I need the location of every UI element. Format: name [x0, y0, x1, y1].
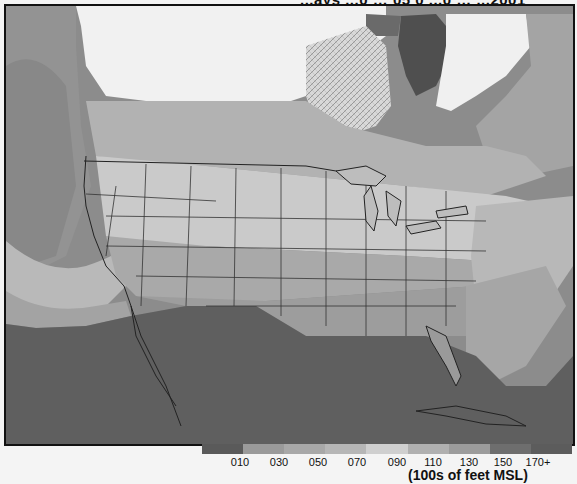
legend-units: (100s of feet MSL) — [408, 467, 528, 483]
legend-swatch — [366, 444, 407, 454]
legend-label: 050 — [309, 456, 327, 468]
legend-label: 090 — [388, 456, 406, 468]
legend-swatch — [202, 444, 243, 454]
legend-swatch — [531, 444, 572, 454]
legend-label: 030 — [270, 456, 288, 468]
legend-swatch — [243, 444, 284, 454]
legend-label: 010 — [231, 456, 249, 468]
legend-label: 170+ — [526, 456, 551, 468]
legend-swatch — [449, 444, 490, 454]
freezing-level-map — [4, 4, 575, 446]
legend-color-bar — [202, 444, 572, 454]
legend-swatch — [490, 444, 531, 454]
legend-swatch — [284, 444, 325, 454]
legend-swatch — [325, 444, 366, 454]
map-graphic — [6, 6, 573, 444]
legend-label: 070 — [348, 456, 366, 468]
legend-swatch — [408, 444, 449, 454]
